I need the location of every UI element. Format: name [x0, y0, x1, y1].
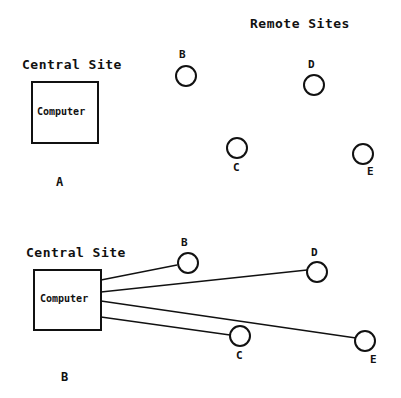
- link-computer-e: [101, 301, 356, 338]
- remote-sites-title: Remote Sites: [250, 16, 350, 31]
- node-d-circle-b: [307, 262, 327, 282]
- node-c-label-a: C: [233, 161, 240, 174]
- panel-b-label: B: [61, 370, 68, 384]
- node-b-circle-b: [178, 253, 198, 273]
- node-e-circle-b: [355, 331, 375, 351]
- node-c-label-b: C: [236, 349, 243, 362]
- node-b-label-b: B: [181, 236, 188, 249]
- node-b-circle-a: [176, 66, 196, 86]
- node-e-label-b: E: [370, 353, 377, 366]
- node-d-label-a: D: [308, 58, 315, 71]
- link-computer-c: [101, 317, 230, 335]
- node-c-circle-a: [227, 138, 247, 158]
- central-site-title-b: Central Site: [26, 245, 126, 260]
- node-b-label-a: B: [179, 48, 186, 61]
- computer-label-a: Computer: [37, 106, 85, 117]
- node-e-circle-a: [353, 144, 373, 164]
- node-e-label-a: E: [367, 165, 374, 178]
- panel-a-label: A: [56, 175, 63, 189]
- link-computer-b: [101, 265, 177, 280]
- node-d-label-b: D: [311, 246, 318, 259]
- network-diagram: Central Site Remote Sites Computer B C D…: [0, 0, 401, 398]
- node-c-circle-b: [230, 326, 250, 346]
- node-d-circle-a: [304, 75, 324, 95]
- central-site-title-a: Central Site: [22, 57, 122, 72]
- computer-label-b: Computer: [40, 293, 88, 304]
